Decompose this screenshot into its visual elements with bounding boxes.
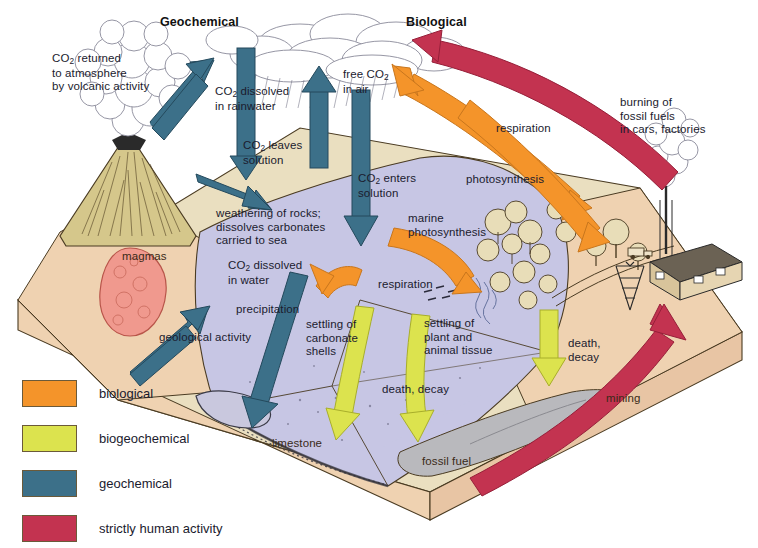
label-respiration-land: respiration	[496, 122, 551, 136]
legend-label-biological: biological	[99, 386, 153, 401]
label-co2-dissolved-rainwater: CO2 dissolvedin rainwater	[215, 85, 289, 113]
label-fossil-fuel: fossil fuel	[422, 455, 471, 469]
legend-swatch-biogeochemical	[22, 425, 77, 452]
label-free-co2-in-air: free CO2in air	[343, 68, 389, 96]
header-biological: Biological	[406, 16, 467, 30]
label-weathering-of-rocks: weathering of rocks;dissolves carbonates…	[216, 207, 325, 248]
label-photosynthesis-land: photosynthesis	[466, 173, 544, 187]
legend-label-biogeochemical: biogeochemical	[99, 431, 189, 446]
legend-item-geochemical: geochemical	[22, 468, 223, 498]
label-precipitation: precipitation	[236, 303, 299, 317]
label-settling-carbonate-shells: settling ofcarbonateshells	[306, 318, 358, 359]
label-death-decay-land: death,decay	[568, 337, 601, 364]
label-marine-photosynthesis: marinephotosynthesis	[408, 212, 486, 239]
legend-item-biogeochemical: biogeochemical	[22, 423, 223, 453]
label-co2-dissolved-in-water: CO2 dissolvedin water	[228, 259, 302, 287]
label-geological-activity: geological activity	[159, 331, 251, 345]
label-respiration-marine: respiration	[378, 278, 433, 292]
legend-label-geochemical: geochemical	[99, 476, 172, 491]
legend-swatch-biological	[22, 380, 77, 407]
label-death-decay-ocean: death, decay	[382, 383, 449, 397]
legend-swatch-geochemical	[22, 470, 77, 497]
label-settling-plant-animal-tissue: settling ofplant andanimal tissue	[424, 317, 492, 358]
legend-swatch-human	[22, 515, 77, 542]
label-burning-fossil-fuels: burning offossil fuelsin cars, factories	[620, 96, 706, 137]
label-mining: mining	[606, 392, 640, 406]
legend: biological biogeochemical geochemical st…	[22, 378, 223, 548]
label-co2-leaves-solution: CO2 leavessolution	[243, 139, 302, 167]
label-magmas: magmas	[122, 250, 167, 264]
label-co2-enters-solution: CO2 enterssolution	[358, 172, 416, 200]
header-geochemical: Geochemical	[160, 16, 239, 30]
label-limestone: limestone	[272, 437, 322, 451]
legend-item-human: strictly human activity	[22, 513, 223, 543]
legend-item-biological: biological	[22, 378, 223, 408]
carbon-cycle-figure: Geochemical Biological CO2 returnedto at…	[0, 0, 758, 548]
legend-label-human: strictly human activity	[99, 521, 223, 536]
label-co2-returned-volcanic: CO2 returnedto atmosphereby volcanic act…	[52, 52, 149, 94]
